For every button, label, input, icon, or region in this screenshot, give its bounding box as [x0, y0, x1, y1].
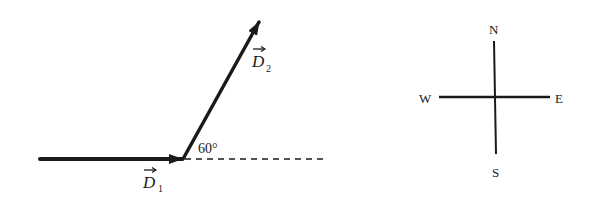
- svg-text:D: D: [251, 52, 265, 71]
- compass-west-label: W: [419, 91, 432, 106]
- angle-label: 60°: [198, 141, 218, 156]
- vector-diagram: 60° D 2 D 1 N S W E: [0, 0, 594, 207]
- vector-d1-label: D 1: [142, 168, 163, 195]
- svg-text:D: D: [142, 173, 156, 192]
- svg-text:2: 2: [266, 63, 271, 74]
- vector-d2: [183, 22, 259, 159]
- compass-east-label: E: [555, 91, 563, 106]
- svg-text:1: 1: [158, 183, 163, 194]
- vector-d2-label: D 2: [251, 47, 271, 75]
- compass-north-label: N: [489, 22, 499, 37]
- compass-rose: N S W E: [419, 22, 563, 180]
- compass-south-label: S: [492, 165, 499, 180]
